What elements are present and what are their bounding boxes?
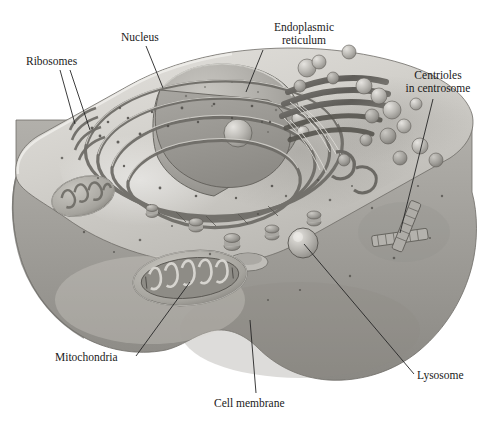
lysosome xyxy=(288,228,318,258)
label-ribosomes: Ribosomes xyxy=(26,55,77,68)
label-ribosomes-text: Ribosomes xyxy=(26,55,77,67)
label-mitochondria-text: Mitochondria xyxy=(55,351,118,363)
label-centrioles-line1: Centrioles xyxy=(398,69,478,82)
label-er-line2: reticulum xyxy=(258,34,350,47)
label-centrioles: Centrioles in centrosome xyxy=(398,69,478,94)
label-lysosome: Lysosome xyxy=(417,369,464,382)
label-centrioles-line2: in centrosome xyxy=(398,82,478,95)
cell-diagram-figure: Ribosomes Nucleus Endoplasmic reticulum … xyxy=(0,0,491,424)
label-cell-membrane: Cell membrane xyxy=(214,397,285,410)
label-endoplasmic-reticulum: Endoplasmic reticulum xyxy=(258,21,350,46)
label-lysosome-text: Lysosome xyxy=(417,369,464,381)
label-mitochondria: Mitochondria xyxy=(55,351,118,364)
label-nucleus-text: Nucleus xyxy=(121,31,159,43)
label-nucleus: Nucleus xyxy=(121,31,159,44)
label-er-line1: Endoplasmic xyxy=(258,21,350,34)
label-cell-membrane-text: Cell membrane xyxy=(214,397,285,409)
